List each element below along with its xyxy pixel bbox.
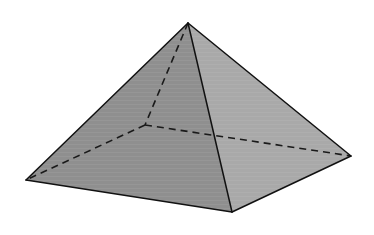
pyramid-diagram xyxy=(0,0,374,235)
pyramid-faces xyxy=(26,23,351,212)
